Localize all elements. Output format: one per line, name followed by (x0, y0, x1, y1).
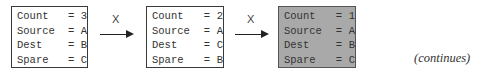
equals-sign: = (204, 53, 217, 68)
state-box-1: Count=3 Source=A Dest=B Spare=C (11, 6, 88, 68)
field-key: Dest (152, 38, 204, 53)
field-source: Source=A (17, 24, 87, 39)
equals-sign: = (68, 24, 81, 39)
field-key: Source (17, 24, 68, 39)
field-key: Count (284, 9, 336, 24)
field-key: Source (152, 24, 204, 39)
field-count: Count=2 (152, 9, 223, 24)
field-spare: Spare=C (284, 53, 355, 68)
arrow-right-icon (235, 30, 269, 40)
equals-sign: = (336, 38, 349, 53)
field-value: 3 (81, 9, 87, 24)
field-value: B (349, 38, 355, 53)
field-value: A (217, 24, 223, 39)
field-key: Source (284, 24, 336, 39)
field-count: Count=1 (284, 9, 355, 24)
equals-sign: = (204, 24, 217, 39)
field-value: B (81, 38, 87, 53)
field-value: C (349, 53, 355, 68)
equals-sign: = (68, 38, 81, 53)
field-key: Count (152, 9, 204, 24)
equals-sign: = (336, 9, 349, 24)
field-key: Spare (284, 53, 336, 68)
field-count: Count=3 (17, 9, 87, 24)
arrow-head (126, 30, 134, 38)
equals-sign: = (204, 38, 217, 53)
field-spare: Spare=B (152, 53, 223, 68)
field-value: 2 (217, 9, 223, 24)
field-dest: Dest=C (152, 38, 223, 53)
field-value: A (349, 24, 355, 39)
field-value: A (81, 24, 87, 39)
field-value: B (217, 53, 223, 68)
field-key: Dest (284, 38, 336, 53)
transition-label-2: X (247, 13, 254, 25)
equals-sign: = (336, 24, 349, 39)
equals-sign: = (68, 9, 81, 24)
equals-sign: = (68, 53, 81, 68)
field-dest: Dest=B (284, 38, 355, 53)
field-key: Dest (17, 38, 68, 53)
arrow-head (261, 30, 269, 38)
field-value: C (217, 38, 223, 53)
field-key: Count (17, 9, 68, 24)
field-source: Source=A (152, 24, 223, 39)
field-dest: Dest=B (17, 38, 87, 53)
field-key: Spare (152, 53, 204, 68)
equals-sign: = (336, 53, 349, 68)
field-value: C (81, 53, 87, 68)
field-source: Source=A (284, 24, 355, 39)
field-key: Spare (17, 53, 68, 68)
continues-caption: (continues) (414, 51, 470, 66)
field-value: 1 (349, 9, 355, 24)
arrow-right-icon (100, 30, 134, 40)
field-spare: Spare=C (17, 53, 87, 68)
state-box-3-shaded: Count=1 Source=A Dest=B Spare=C (278, 6, 356, 68)
state-box-2: Count=2 Source=A Dest=C Spare=B (146, 6, 224, 68)
arrow-shaft (100, 34, 128, 35)
equals-sign: = (204, 9, 217, 24)
arrow-shaft (235, 34, 263, 35)
transition-label-1: X (112, 13, 119, 25)
